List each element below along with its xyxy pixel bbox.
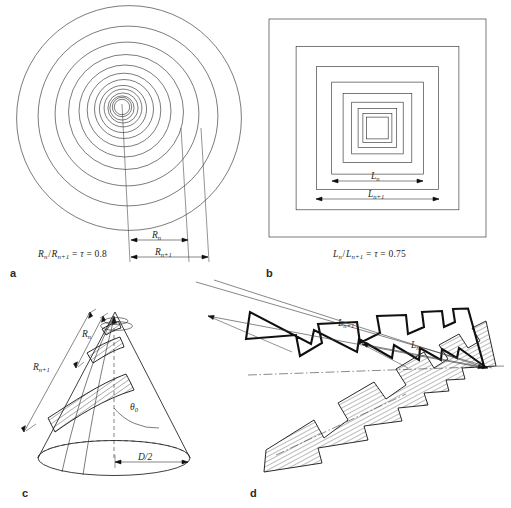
panel-d-tooth-antenna: Ln+1 Ln [256, 290, 511, 508]
concentric-circle-set [17, 6, 242, 231]
label-l-n-plus-1: Ln+1 [367, 189, 384, 200]
panel-a-concentric-circles: Rn Rn+1 [0, 0, 256, 290]
panel-a-extension-lines [122, 104, 209, 262]
antenna-lower-half [264, 321, 496, 472]
label-r-n-cone: Rn [81, 329, 92, 340]
eqn-b-equals-1: = [366, 249, 372, 259]
cone-band-medium [87, 337, 124, 363]
label-r-n-plus-1: Rn+1 [154, 247, 172, 258]
label-d-over-2: D/2 [137, 452, 153, 462]
equation-panel-a: Rn/Rn+1 = τ = 0.8 [38, 249, 107, 259]
dimension-r-n-plus-1: Rn+1 [131, 247, 208, 259]
label-r-n-plus-1-cone: Rn+1 [32, 362, 50, 373]
eqn-b-numerator: Ln [333, 249, 342, 259]
panel-letter-d: d [250, 488, 257, 499]
eqn-a-value: 0.8 [95, 249, 107, 259]
eqn-b-value: 0.75 [388, 249, 405, 259]
panel-letter-c: c [22, 488, 28, 499]
label-l-n-antenna: Ln [410, 340, 420, 351]
label-l-n: Ln [370, 171, 380, 182]
label-theta-0: θ0 [130, 402, 139, 413]
panel-b-nested-squares: Ln Ln+1 [256, 0, 511, 290]
lower-tooth-hatched [264, 321, 496, 472]
cone-band-small [102, 322, 121, 336]
eqn-a-denominator: Rn+1 [51, 249, 69, 259]
eqn-b-denominator: Ln+1 [346, 249, 363, 259]
cone-band-large [48, 374, 134, 432]
eqn-a-equals-2: = [86, 249, 92, 259]
dimension-d-over-2: D/2 [115, 452, 188, 468]
dimension-l-n-plus-1: Ln+1 [316, 189, 439, 201]
figure-self-similar-antennas: Rn Rn+1 [0, 0, 511, 508]
panel-letter-a: a [10, 268, 16, 279]
panel-b-drawing: Ln Ln+1 [256, 0, 511, 290]
label-l-n-plus-1-antenna: Ln+1 [337, 318, 354, 329]
panel-a-drawing: Rn Rn+1 [0, 0, 256, 290]
eqn-b-tau: τ [374, 249, 378, 259]
panel-c-cone: θ0 D/2 Rn [0, 290, 256, 508]
eqn-a-equals-1: = [72, 249, 78, 259]
panel-letter-b: b [266, 268, 273, 279]
angle-theta-0: θ0 [114, 402, 159, 428]
label-r-n: Rn [151, 230, 162, 241]
dimension-r-n: Rn [131, 230, 188, 242]
eqn-b-equals-2: = [380, 249, 386, 259]
eqn-a-tau: τ [80, 249, 84, 259]
equation-panel-b: Ln/Ln+1 = τ = 0.75 [333, 249, 406, 259]
dimension-l-n: Ln [332, 171, 423, 183]
nested-square-set [269, 19, 486, 237]
panel-d-drawing: Ln+1 Ln [256, 290, 511, 508]
panel-c-drawing: θ0 D/2 Rn [0, 290, 256, 508]
eqn-a-numerator: Rn [38, 249, 48, 259]
